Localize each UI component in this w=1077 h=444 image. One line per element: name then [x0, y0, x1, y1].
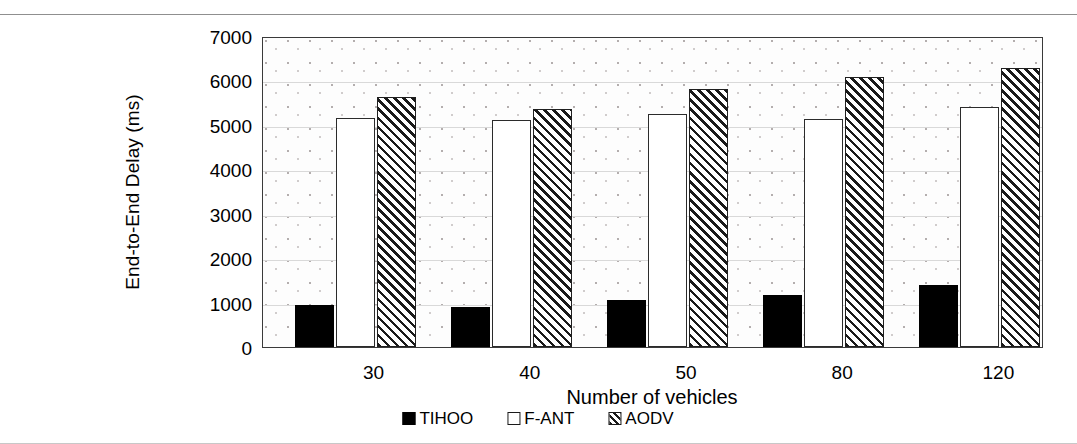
x-tick-label: 30 — [314, 362, 434, 384]
bar-aodv-30 — [377, 97, 416, 347]
x-tick-label: 50 — [626, 362, 746, 384]
legend-label-tihoo: TIHOO — [419, 410, 473, 427]
legend-item-aodv: AODV — [608, 410, 673, 427]
chart-figure: End-to-End Delay (ms) 010002000300040005… — [0, 0, 1077, 444]
legend-label-aodv: AODV — [625, 410, 673, 427]
y-tick-label: 4000 — [182, 161, 252, 180]
legend-swatch-tihoo-icon — [402, 412, 415, 425]
plot-area — [262, 37, 1043, 348]
y-tick-label: 2000 — [182, 250, 252, 269]
y-tick-label: 5000 — [182, 116, 252, 135]
bar-tihoo-80 — [763, 295, 802, 347]
bar-aodv-80 — [845, 77, 884, 347]
x-axis-title: Number of vehicles — [566, 386, 737, 409]
y-tick-label: 7000 — [182, 28, 252, 47]
bar-fant-30 — [336, 118, 375, 347]
y-tick-label: 6000 — [182, 72, 252, 91]
y-tick-label: 3000 — [182, 205, 252, 224]
bar-fant-80 — [804, 119, 843, 347]
bar-aodv-120 — [1001, 68, 1040, 347]
bar-tihoo-120 — [919, 285, 958, 347]
legend-swatch-aodv-icon — [608, 412, 621, 425]
legend-item-tihoo: TIHOO — [402, 410, 473, 427]
legend-swatch-fant-icon — [507, 412, 520, 425]
chart-legend: TIHOO F-ANT AODV — [402, 410, 673, 427]
bar-tihoo-40 — [451, 307, 490, 347]
bar-tihoo-50 — [607, 300, 646, 347]
gridline — [263, 82, 1042, 83]
bar-fant-40 — [492, 120, 531, 347]
y-tick-label: 0 — [182, 339, 252, 358]
bar-aodv-50 — [689, 89, 728, 347]
legend-item-fant: F-ANT — [507, 410, 574, 427]
bar-fant-50 — [648, 114, 687, 347]
bar-aodv-40 — [533, 109, 572, 347]
bar-tihoo-30 — [295, 305, 334, 347]
x-tick-label: 40 — [470, 362, 590, 384]
y-tick-label: 1000 — [182, 294, 252, 313]
bar-fant-120 — [960, 107, 999, 347]
legend-label-fant: F-ANT — [524, 410, 574, 427]
x-tick-label: 120 — [938, 362, 1058, 384]
x-tick-label: 80 — [782, 362, 902, 384]
